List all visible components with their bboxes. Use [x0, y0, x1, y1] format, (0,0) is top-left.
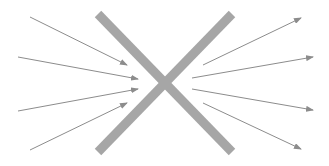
x-cross-shape	[98, 14, 232, 152]
incoming-arrow-2	[18, 57, 138, 79]
outgoing-arrow-2	[192, 57, 313, 78]
converging-diverging-diagram	[0, 0, 329, 166]
incoming-arrow-3	[18, 89, 138, 111]
